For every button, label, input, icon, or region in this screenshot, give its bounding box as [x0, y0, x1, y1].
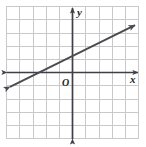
y-axis-label: y [75, 6, 82, 18]
origin-label: O [62, 77, 69, 88]
x-axis-label: x [129, 73, 136, 85]
coordinate-plane-svg: x y O [0, 0, 146, 147]
coordinate-plane-figure: x y O [0, 0, 146, 147]
